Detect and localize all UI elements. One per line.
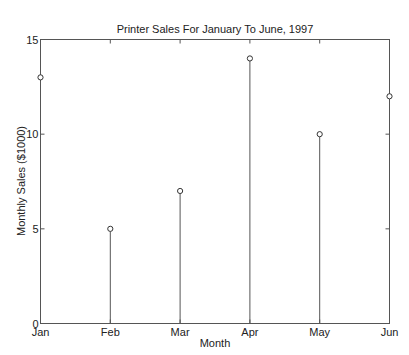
axis-ticks xyxy=(41,40,390,324)
x-tick-label: May xyxy=(309,326,330,338)
stem-marker xyxy=(317,132,322,137)
x-tick-labels: JanFebMarAprMayJun xyxy=(32,326,399,338)
stem-marker xyxy=(38,75,43,80)
stem-marker xyxy=(108,226,113,231)
y-axis-label: Monthly Sales ($1000) xyxy=(15,126,27,236)
data-stems xyxy=(38,56,392,324)
y-tick-label: 0 xyxy=(32,318,38,330)
y-tick-label: 10 xyxy=(26,128,38,140)
y-tick-label: 15 xyxy=(26,34,38,46)
x-axis-label: Month xyxy=(200,337,231,349)
chart-title: Printer Sales For January To June, 1997 xyxy=(117,23,314,35)
stem-marker xyxy=(387,94,392,99)
x-tick-label: Feb xyxy=(101,326,120,338)
stem-chart: Printer Sales For January To June, 1997 … xyxy=(0,0,409,355)
plot-area xyxy=(41,40,390,324)
x-tick-label: Mar xyxy=(171,326,190,338)
x-tick-label: Jun xyxy=(381,326,399,338)
y-tick-labels: 051015 xyxy=(26,34,38,330)
y-tick-label: 5 xyxy=(32,223,38,235)
x-tick-label: Apr xyxy=(241,326,258,338)
stem-marker xyxy=(247,56,252,61)
stem-marker xyxy=(178,188,183,193)
